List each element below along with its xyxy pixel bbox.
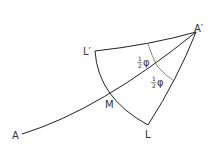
- label-M: M: [105, 99, 114, 110]
- arc-A-to-A-prime: [22, 32, 196, 134]
- svg-text:1: 1: [138, 55, 142, 62]
- angle-label-upper: 1 2 φ: [137, 55, 150, 69]
- label-L-prime: L′: [83, 46, 92, 57]
- arc-L-prime-to-A-prime: [95, 32, 196, 51]
- svg-text:φ: φ: [143, 57, 150, 68]
- label-L: L: [145, 129, 151, 140]
- angle-label-lower: 1 2 φ: [151, 75, 164, 89]
- svg-text:2: 2: [138, 62, 142, 69]
- label-A: A: [12, 130, 19, 141]
- svg-text:φ: φ: [157, 77, 164, 88]
- label-A-prime: A′: [194, 23, 204, 34]
- spherical-triangle-diagram: A′ L′ M L A 1 2 φ 1 2 φ: [0, 0, 218, 149]
- svg-text:2: 2: [152, 82, 156, 89]
- svg-text:1: 1: [152, 75, 156, 82]
